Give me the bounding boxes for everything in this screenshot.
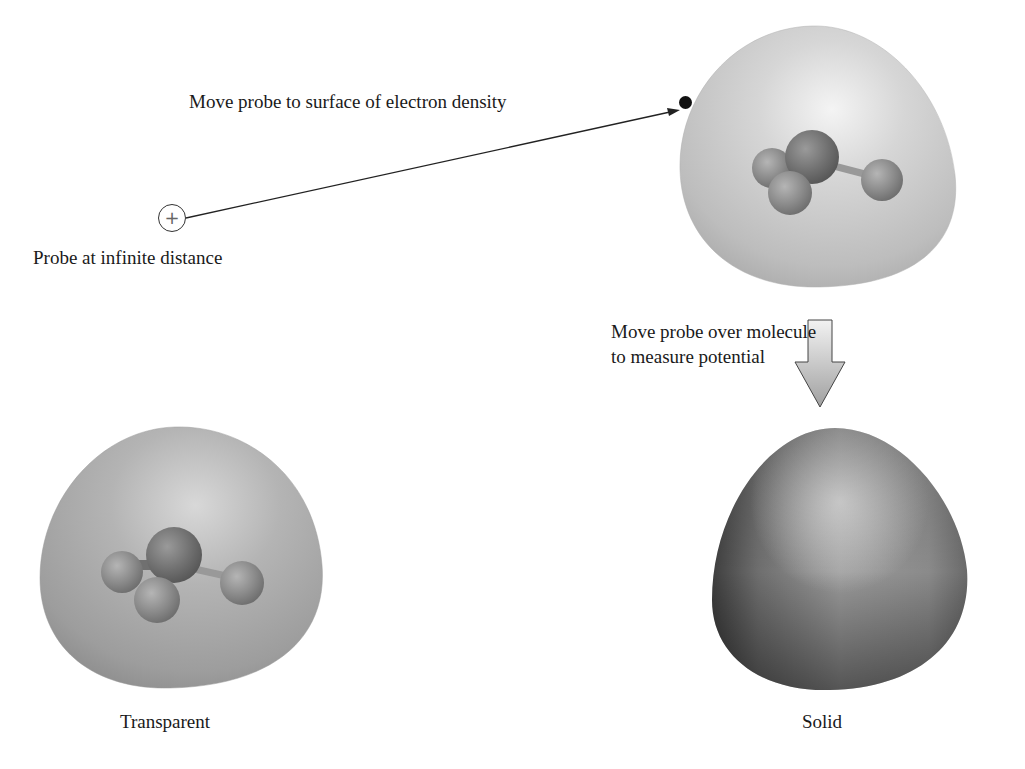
probe-on-surface-dot (679, 96, 692, 109)
label-move-over-line1: Move probe over molecule (611, 320, 816, 344)
probe-path-arrow (186, 108, 680, 218)
positive-charge-icon: + (158, 204, 186, 232)
label-probe-infinite: Probe at infinite distance (33, 246, 222, 270)
diagram-canvas (0, 0, 1025, 769)
label-move-to-surface: Move probe to surface of electron densit… (189, 90, 507, 114)
label-move-over-line2: to measure potential (611, 345, 765, 369)
label-transparent: Transparent (120, 710, 210, 734)
label-solid: Solid (802, 710, 842, 734)
potential-surface-solid (712, 428, 967, 690)
probe-symbol: + (164, 209, 179, 227)
